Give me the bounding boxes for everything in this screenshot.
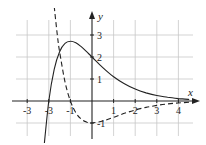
x-axis-label: x bbox=[187, 86, 193, 98]
function-graph: -3-3-11234321-1 x y bbox=[0, 0, 206, 145]
x-tick-label: -3 bbox=[23, 105, 31, 116]
x-tick-label: 4 bbox=[176, 105, 181, 116]
y-tick-label: 3 bbox=[97, 30, 102, 41]
y-tick-label: -1 bbox=[97, 118, 105, 129]
x-tick-label: 1 bbox=[111, 105, 116, 116]
curves bbox=[43, 6, 189, 145]
y-axis-label: y bbox=[97, 10, 103, 22]
x-axis-arrow-icon bbox=[192, 98, 200, 104]
y-tick-label: 2 bbox=[97, 52, 102, 63]
x-tick-label: -3 bbox=[45, 105, 53, 116]
axes bbox=[12, 11, 200, 139]
x-tick-label: -1 bbox=[66, 105, 74, 116]
y-tick-label: 1 bbox=[97, 74, 102, 85]
x-tick-label: 3 bbox=[154, 105, 159, 116]
y-axis-arrow-icon bbox=[89, 11, 95, 19]
